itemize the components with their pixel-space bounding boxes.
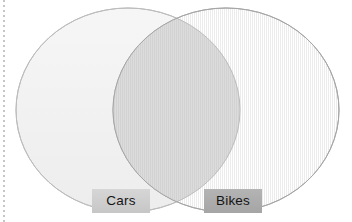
set-label-cars-text: Cars [106,194,135,208]
venn-shapes [0,0,352,222]
set-label-bikes[interactable]: Bikes [204,189,262,213]
set-label-bikes-text: Bikes [216,194,250,208]
venn-diagram-canvas [0,0,352,222]
venn-diagram-screenshot: Cars Bikes [0,0,352,222]
set-label-cars[interactable]: Cars [92,189,150,213]
